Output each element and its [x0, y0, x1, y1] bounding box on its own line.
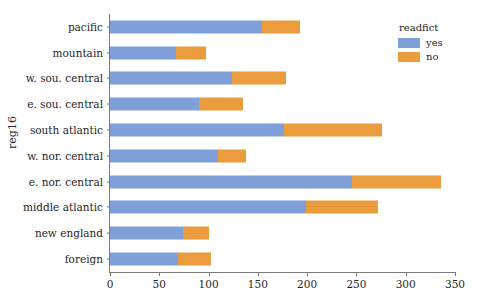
- y-axis-tick-label: w. nor. central: [27, 150, 103, 162]
- bar-row: middle atlantic: [110, 195, 455, 221]
- stacked-bar: [110, 175, 441, 188]
- legend-label: yes: [426, 37, 443, 48]
- stacked-bar-chart: reg16 pacificmountainw. sou. centrale. s…: [0, 0, 477, 303]
- x-axis-tick-label: 250: [346, 278, 366, 290]
- x-axis-tick-label: 50: [153, 278, 166, 290]
- x-axis-tick-label: 150: [248, 278, 268, 290]
- stacked-bar: [110, 201, 378, 214]
- bar-segment-yes: [110, 253, 178, 266]
- bar-segment-yes: [110, 149, 218, 162]
- bar-segment-no: [178, 253, 211, 266]
- bar-row: w. nor. central: [110, 143, 455, 169]
- y-axis-tick-label: foreign: [65, 253, 103, 265]
- bar-row: foreign: [110, 246, 455, 272]
- bar-segment-yes: [110, 72, 232, 85]
- bar-row: w. sou. central: [110, 66, 455, 92]
- bar-segment-yes: [110, 46, 176, 59]
- legend-title: readfict: [399, 22, 443, 33]
- y-axis-tick-label: new england: [35, 227, 103, 239]
- legend-swatch-no: [398, 52, 420, 62]
- bar-segment-yes: [110, 201, 306, 214]
- legend-item-yes[interactable]: yes: [398, 37, 443, 48]
- x-axis-tick-label: 300: [396, 278, 416, 290]
- bar-segment-yes: [110, 20, 262, 33]
- bar-segment-yes: [110, 98, 199, 111]
- legend-swatch-yes: [398, 38, 420, 48]
- x-axis-tick: [307, 272, 308, 276]
- x-axis-tick: [110, 272, 111, 276]
- stacked-bar: [110, 149, 246, 162]
- stacked-bar: [110, 98, 243, 111]
- bar-segment-no: [262, 20, 300, 33]
- legend-item-no[interactable]: no: [398, 51, 443, 62]
- stacked-bar: [110, 20, 300, 33]
- bar-segment-no: [352, 175, 441, 188]
- bar-row: new england: [110, 220, 455, 246]
- x-axis-tick: [356, 272, 357, 276]
- x-axis-tick: [159, 272, 160, 276]
- y-axis-tick-label: south atlantic: [30, 124, 103, 136]
- bar-segment-no: [218, 149, 246, 162]
- y-axis-tick-label: e. sou. central: [27, 98, 103, 110]
- legend-label: no: [426, 51, 438, 62]
- bar-segment-no: [284, 124, 382, 137]
- bar-segment-yes: [110, 227, 183, 240]
- x-axis-tick-label: 200: [297, 278, 317, 290]
- y-axis-tick-label: w. sou. central: [26, 72, 103, 84]
- bar-segment-no: [183, 227, 209, 240]
- bar-segment-no: [232, 72, 286, 85]
- x-axis-tick: [258, 272, 259, 276]
- bar-segment-yes: [110, 175, 352, 188]
- bar-segment-no: [199, 98, 243, 111]
- y-axis-tick-label: mountain: [53, 47, 103, 59]
- y-axis-title: reg16: [6, 103, 19, 163]
- x-axis-tick-label: 100: [199, 278, 219, 290]
- y-axis-tick-label: pacific: [68, 21, 103, 33]
- stacked-bar: [110, 72, 286, 85]
- x-axis-line: [109, 272, 455, 273]
- legend-items: yesno: [398, 37, 443, 62]
- x-axis-tick: [455, 272, 456, 276]
- stacked-bar: [110, 46, 206, 59]
- y-axis-tick-label: middle atlantic: [23, 201, 103, 213]
- stacked-bar: [110, 227, 209, 240]
- bar-row: e. sou. central: [110, 91, 455, 117]
- bar-row: e. nor. central: [110, 169, 455, 195]
- x-axis-tick-label: 350: [445, 278, 465, 290]
- x-axis-tick-label: 0: [107, 278, 114, 290]
- stacked-bar: [110, 253, 211, 266]
- x-axis-tick: [406, 272, 407, 276]
- bar-row: south atlantic: [110, 117, 455, 143]
- x-axis-tick: [209, 272, 210, 276]
- y-axis-tick-label: e. nor. central: [29, 176, 103, 188]
- stacked-bar: [110, 124, 382, 137]
- bar-segment-no: [306, 201, 378, 214]
- bar-segment-yes: [110, 124, 284, 137]
- bar-segment-no: [176, 46, 206, 59]
- legend: readfict yesno: [398, 22, 443, 65]
